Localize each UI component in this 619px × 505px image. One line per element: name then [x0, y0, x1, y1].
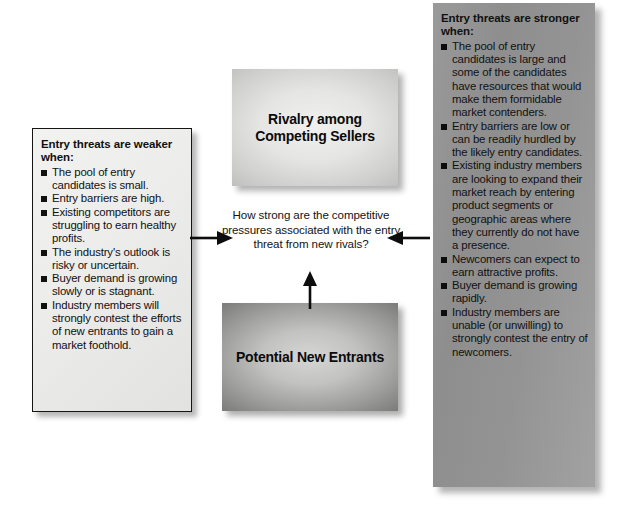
entry-threats-weaker-panel: Entry threats are weaker when: The pool …: [32, 128, 192, 412]
square-bullet-icon: [441, 283, 447, 289]
arrow-right-to-center-icon: [385, 227, 431, 249]
list-item-label: Existing competitors are struggling to e…: [52, 206, 176, 245]
square-bullet-icon: [441, 310, 447, 316]
square-bullet-icon: [41, 210, 47, 216]
list-item: Buyer demand is growing slowly or is sta…: [41, 272, 184, 299]
list-item: The pool of entry candidates is large an…: [441, 40, 588, 120]
right-panel-heading: Entry threats are stronger when:: [441, 12, 588, 39]
list-item: Entry barriers are high.: [41, 192, 184, 205]
entry-threats-stronger-panel: Entry threats are stronger when: The poo…: [433, 3, 595, 487]
list-item: Existing competitors are struggling to e…: [41, 206, 184, 246]
list-item-label: Industry members will strongly contest t…: [52, 299, 181, 351]
entrants-box-label: Potential New Entrants: [236, 349, 384, 366]
square-bullet-icon: [41, 276, 47, 282]
list-item-label: Existing industry members are looking to…: [452, 159, 582, 251]
list-item: Industry members will strongly contest t…: [41, 299, 184, 352]
square-bullet-icon: [441, 124, 447, 130]
list-item: Entry barriers are low or can be readily…: [441, 120, 588, 160]
list-item-label: Buyer demand is growing slowly or is sta…: [52, 272, 177, 297]
right-panel-bullet-list: The pool of entry candidates is large an…: [441, 40, 588, 359]
square-bullet-icon: [41, 303, 47, 309]
arrow-entrants-to-question-icon: [299, 270, 321, 310]
square-bullet-icon: [41, 196, 47, 202]
list-item: Newcomers can expect to earn attractive …: [441, 253, 588, 280]
list-item-label: Buyer demand is growing rapidly.: [452, 279, 577, 304]
arrow-left-to-center-icon: [189, 227, 235, 249]
list-item-label: The pool of entry candidates is small.: [52, 166, 148, 191]
list-item: The pool of entry candidates is small.: [41, 166, 184, 193]
list-item: Industry members are unable (or unwillin…: [441, 306, 588, 359]
center-question-text: How strong are the competitive pressures…: [218, 208, 404, 252]
square-bullet-icon: [441, 163, 447, 169]
rivalry-box-label: Rivalry among Competing Sellers: [232, 111, 398, 145]
list-item: Existing industry members are looking to…: [441, 159, 588, 252]
square-bullet-icon: [41, 170, 47, 176]
square-bullet-icon: [441, 44, 447, 50]
potential-new-entrants-box: Potential New Entrants: [222, 303, 398, 411]
square-bullet-icon: [41, 250, 47, 256]
list-item-label: The pool of entry candidates is large an…: [452, 40, 581, 118]
list-item-label: Newcomers can expect to earn attractive …: [452, 253, 580, 278]
list-item: The industry's outlook is risky or uncer…: [41, 246, 184, 273]
diagram-canvas: Entry threats are weaker when: The pool …: [0, 0, 619, 505]
square-bullet-icon: [441, 257, 447, 263]
left-panel-heading: Entry threats are weaker when:: [41, 138, 184, 165]
list-item-label: Entry barriers are high.: [52, 192, 164, 204]
list-item-label: The industry's outlook is risky or uncer…: [52, 246, 170, 271]
left-panel-bullet-list: The pool of entry candidates is small. E…: [41, 166, 184, 352]
list-item-label: Industry members are unable (or unwillin…: [452, 306, 588, 358]
rivalry-among-competing-sellers-box: Rivalry among Competing Sellers: [232, 69, 398, 186]
list-item-label: Entry barriers are low or can be readily…: [452, 120, 582, 159]
list-item: Buyer demand is growing rapidly.: [441, 279, 588, 306]
